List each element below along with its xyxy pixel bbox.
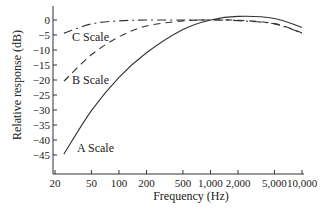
x-tick-label: 2,000 (226, 177, 251, 189)
x-tick-label: 500 (175, 177, 192, 189)
y-tick-label: −25 (33, 89, 51, 101)
sound-weighting-chart: 0−5−10−15−20−25−30−35−40−452050100200500… (0, 0, 332, 213)
y-tick-label: −35 (33, 119, 51, 131)
x-tick-label: 20 (50, 177, 62, 189)
x-tick-label: 10,000 (287, 177, 318, 189)
x-tick-label: 50 (86, 177, 98, 189)
c-scale-label: C Scale (72, 30, 109, 44)
y-tick-label: −30 (33, 104, 51, 116)
b-scale-label: B Scale (72, 73, 109, 87)
y-axis-label: Relative response (dB) (10, 30, 24, 140)
x-tick-label: 200 (138, 177, 155, 189)
x-axis-label: Frequency (Hz) (153, 189, 229, 203)
y-tick-label: −45 (33, 149, 51, 161)
y-tick-label: −10 (33, 44, 51, 56)
a-scale-label: A Scale (77, 141, 114, 155)
y-tick-label: −5 (38, 29, 50, 41)
y-tick-label: −20 (33, 74, 51, 86)
x-tick-label: 1,000 (198, 177, 223, 189)
x-tick-label: 5,000 (262, 177, 287, 189)
y-tick-label: −15 (33, 59, 51, 71)
x-tick-label: 100 (111, 177, 128, 189)
y-tick-label: 0 (45, 14, 51, 26)
y-tick-label: −40 (33, 134, 51, 146)
